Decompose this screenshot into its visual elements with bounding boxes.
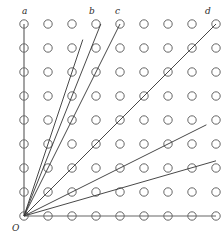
lattice-dot [188, 116, 196, 124]
lattice-dot [212, 44, 220, 52]
lattice-dot [212, 164, 220, 172]
lattice-dot [44, 68, 52, 76]
vertex-label-b: b [89, 7, 95, 16]
lattice-dot [92, 92, 100, 100]
vertex-label-a: a [22, 7, 27, 16]
lattice-dot [140, 68, 148, 76]
lattice-dot [116, 68, 124, 76]
lattice-dot [212, 140, 220, 148]
ray-d-steep [24, 24, 120, 216]
lattice-dot [68, 20, 76, 28]
ray-d [24, 24, 216, 216]
lattice-dot [188, 140, 196, 148]
lattice-dot [68, 44, 76, 52]
lattice-dot [212, 116, 220, 124]
lattice-dot [44, 20, 52, 28]
lattice-dot [164, 164, 172, 172]
ray-f [24, 161, 216, 216]
lattice-dot [44, 116, 52, 124]
lattice-canvas [0, 0, 222, 245]
lattice-dot [164, 44, 172, 52]
lattice-dot [140, 20, 148, 28]
lattice-dot [164, 188, 172, 196]
lattice-dot [44, 44, 52, 52]
lattice-dot [92, 164, 100, 172]
lattice-dot [116, 44, 124, 52]
lattice-dot [116, 140, 124, 148]
lattice-dot [188, 68, 196, 76]
lattice-dot [140, 164, 148, 172]
lattice-dot [116, 92, 124, 100]
lattice-dot [92, 44, 100, 52]
lattice-dot [212, 188, 220, 196]
lattice-dot [212, 68, 220, 76]
vertex-label-d: d [205, 7, 211, 16]
lattice-dot [164, 20, 172, 28]
lattice-dot [92, 116, 100, 124]
lattice-ray-figure: a b c d O [0, 0, 222, 245]
ray-b [24, 40, 83, 216]
lattice-dot [164, 92, 172, 100]
lattice-dot [140, 116, 148, 124]
lattice-dot [92, 20, 100, 28]
ray-c [24, 24, 101, 216]
lattice-dot [188, 20, 196, 28]
lattice-dot [140, 188, 148, 196]
lattice-dot [68, 140, 76, 148]
lattice-dot [164, 116, 172, 124]
lattice-dot [140, 44, 148, 52]
lattice-dot [44, 92, 52, 100]
lattice-dot [212, 92, 220, 100]
lattice-dot [188, 188, 196, 196]
origin-label-o: O [12, 224, 19, 233]
lattice-dot [140, 140, 148, 148]
lattice-dot [188, 92, 196, 100]
rays-layer [24, 24, 216, 216]
vertex-label-c: c [115, 7, 120, 16]
